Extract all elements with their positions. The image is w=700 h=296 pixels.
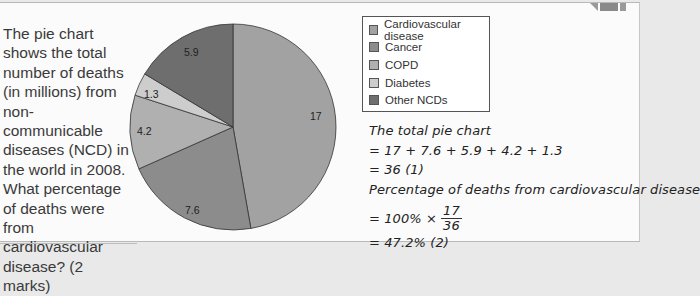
working-line-4: Percentage of deaths from cardiovascular… [369,182,700,202]
label-copd: 4.2 [137,125,152,137]
label-other: 5.9 [184,46,199,58]
fraction: 17 36 [441,204,462,233]
swatch-icon [369,25,378,35]
swatch-icon [369,60,379,70]
divider [0,243,137,244]
legend-item-cvd: Cardiovascular disease [369,21,489,39]
working-line-3: = 36 (1) [369,162,700,182]
working-line-1: The total pie chart [369,123,700,143]
working-line-5: = 100% × 17 36 [369,201,700,235]
slice-cvd [233,24,336,228]
worked-answer: The total pie chart = 17 + 7.6 + 5.9 + 4… [369,123,700,255]
swatch-icon [369,95,379,105]
chart-legend: Cardiovascular disease Cancer COPD Diabe… [362,16,490,112]
swatch-icon [369,78,379,88]
legend-item-copd: COPD [369,56,489,74]
swatch-icon [369,42,379,52]
working-line-6: = 47.2% (2) [369,235,700,255]
legend-item-other: Other NCDs [369,91,489,109]
working-line-2: = 17 + 7.6 + 5.9 + 4.2 + 1.3 [369,143,700,163]
label-diabetes: 1.3 [144,88,159,100]
label-cvd: 17 [310,110,322,122]
legend-item-diabetes: Diabetes [369,74,489,92]
label-cancer: 7.6 [185,204,200,216]
